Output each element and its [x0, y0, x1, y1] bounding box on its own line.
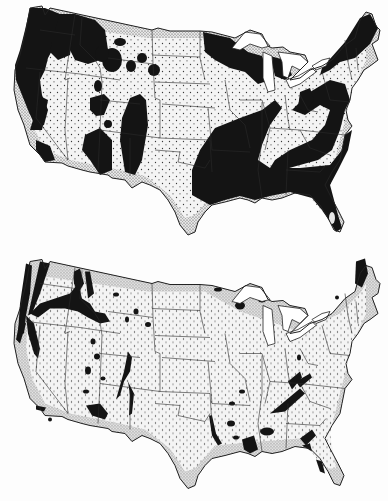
- figure: Two stippled maps of the contiguous Unit…: [0, 0, 388, 501]
- map-bottom: [0, 250, 388, 501]
- map-top: [0, 0, 388, 250]
- us-map-top-svg: [0, 0, 388, 250]
- us-map-bottom-svg: [0, 250, 388, 501]
